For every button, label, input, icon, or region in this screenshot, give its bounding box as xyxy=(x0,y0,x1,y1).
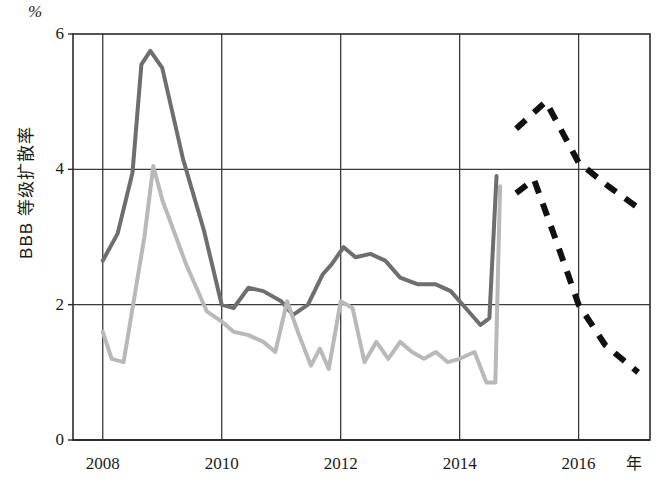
plot-area xyxy=(0,0,658,486)
grid-lines xyxy=(73,34,650,440)
series-line-4 xyxy=(516,179,638,372)
plot-frame xyxy=(68,34,650,440)
data-series xyxy=(103,51,641,383)
series-line-1 xyxy=(103,51,497,325)
chart-container: % BBB 等级扩散率 0246 年 20082010201220142016 xyxy=(0,0,658,486)
series-line-2 xyxy=(103,166,500,383)
plot-border xyxy=(73,34,650,440)
